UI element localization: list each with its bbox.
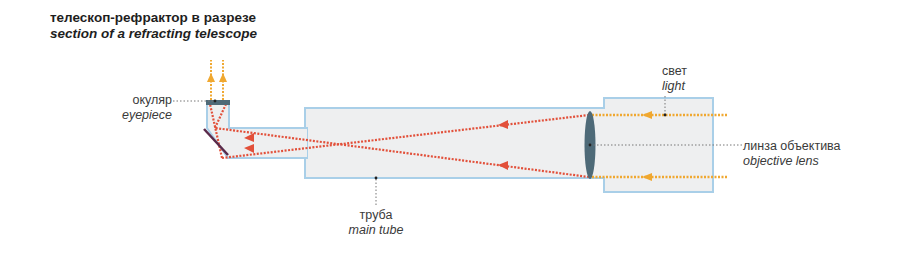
label-light-ru: свет — [662, 64, 722, 79]
label-eyepiece: окуляр eyepiece — [100, 93, 172, 123]
label-light-en: light — [662, 79, 722, 94]
label-main-tube-en: main tube — [326, 223, 426, 238]
label-eyepiece-en: eyepiece — [100, 108, 172, 123]
telescope-body — [207, 98, 713, 192]
label-eyepiece-ru: окуляр — [100, 93, 172, 108]
up-arrow-icon — [207, 73, 215, 82]
label-main-tube-ru: труба — [326, 208, 426, 223]
output-rays — [207, 60, 227, 100]
eyepiece-lens — [206, 100, 230, 105]
label-objective-lens-ru: линза объектива — [743, 139, 903, 154]
pointer-dot — [589, 144, 592, 147]
label-objective-lens: линза объектива objective lens — [743, 139, 903, 169]
main-tube-shape — [305, 108, 604, 178]
label-objective-lens-en: objective lens — [743, 154, 903, 169]
pointer-dot — [664, 114, 667, 117]
label-main-tube: труба main tube — [326, 208, 426, 238]
pointer-dot — [214, 100, 217, 103]
up-arrow-icon — [219, 73, 227, 82]
pointer-dot — [375, 177, 378, 180]
telescope-diagram — [0, 0, 906, 253]
label-light: свет light — [662, 64, 722, 94]
